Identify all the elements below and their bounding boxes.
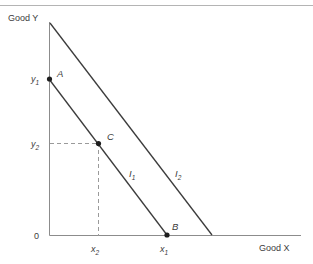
tick-label-x1-sub: 1 [165, 249, 169, 256]
curve-label-i2-sub: 2 [177, 174, 182, 181]
origin-label: 0 [34, 231, 39, 241]
point-label-c: C [107, 131, 114, 142]
tick-label-y2-sub: 2 [35, 144, 40, 151]
y-axis-label: Good Y [8, 13, 38, 23]
tick-label-x2-sub: 2 [95, 249, 100, 256]
point-b-marker [164, 232, 169, 237]
curve-label-i1-sub: 1 [132, 174, 136, 181]
budget-line-diagram: Good Y Good X 0 y1 y2 x2 x1 A C B I1 [0, 0, 313, 264]
budget-line-i2 [50, 23, 212, 235]
tick-label-y1-sub: 1 [36, 79, 40, 86]
tick-label-x2: x2 [90, 244, 100, 256]
point-label-a: A [56, 68, 63, 79]
curve-label-i1: I1 [129, 168, 136, 181]
tick-label-y2: y2 [30, 139, 40, 151]
budget-line-i1 [49, 79, 167, 235]
point-a-marker [47, 76, 52, 81]
tick-label-x1: x1 [159, 244, 169, 256]
point-c-marker [96, 141, 101, 146]
x-axis-label: Good X [259, 243, 290, 253]
diagram-canvas: Good Y Good X 0 y1 y2 x2 x1 A C B I1 [0, 0, 313, 264]
point-label-b: B [172, 221, 179, 232]
tick-label-y1: y1 [30, 74, 40, 86]
curve-label-i2: I2 [175, 168, 182, 181]
